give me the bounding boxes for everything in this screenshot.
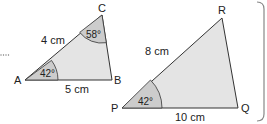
side-ab-label: 5 cm xyxy=(65,83,89,95)
continuation-dots xyxy=(0,54,9,55)
vertex-b-label: B xyxy=(114,74,121,86)
triangle-pqr: R P Q 8 cm 10 cm 42° xyxy=(111,4,250,123)
vertex-c-label: C xyxy=(98,2,106,14)
vertex-r-label: R xyxy=(218,4,226,16)
side-pq-label: 10 cm xyxy=(175,111,205,123)
angle-p-label: 42° xyxy=(138,96,153,107)
vertex-p-label: P xyxy=(111,102,118,114)
side-pr-label: 8 cm xyxy=(145,45,169,57)
vertex-a-label: A xyxy=(14,74,22,86)
angle-a-label: 42° xyxy=(40,68,55,79)
similar-triangles-diagram: C A B 4 cm 5 cm 42° 58° R P Q 8 cm 10 cm… xyxy=(0,0,267,124)
vertex-q-label: Q xyxy=(241,102,250,114)
triangle-abc: C A B 4 cm 5 cm 42° 58° xyxy=(14,2,121,95)
panel-border xyxy=(257,2,264,121)
side-ac-label: 4 cm xyxy=(41,34,65,46)
angle-c-label: 58° xyxy=(86,29,101,40)
